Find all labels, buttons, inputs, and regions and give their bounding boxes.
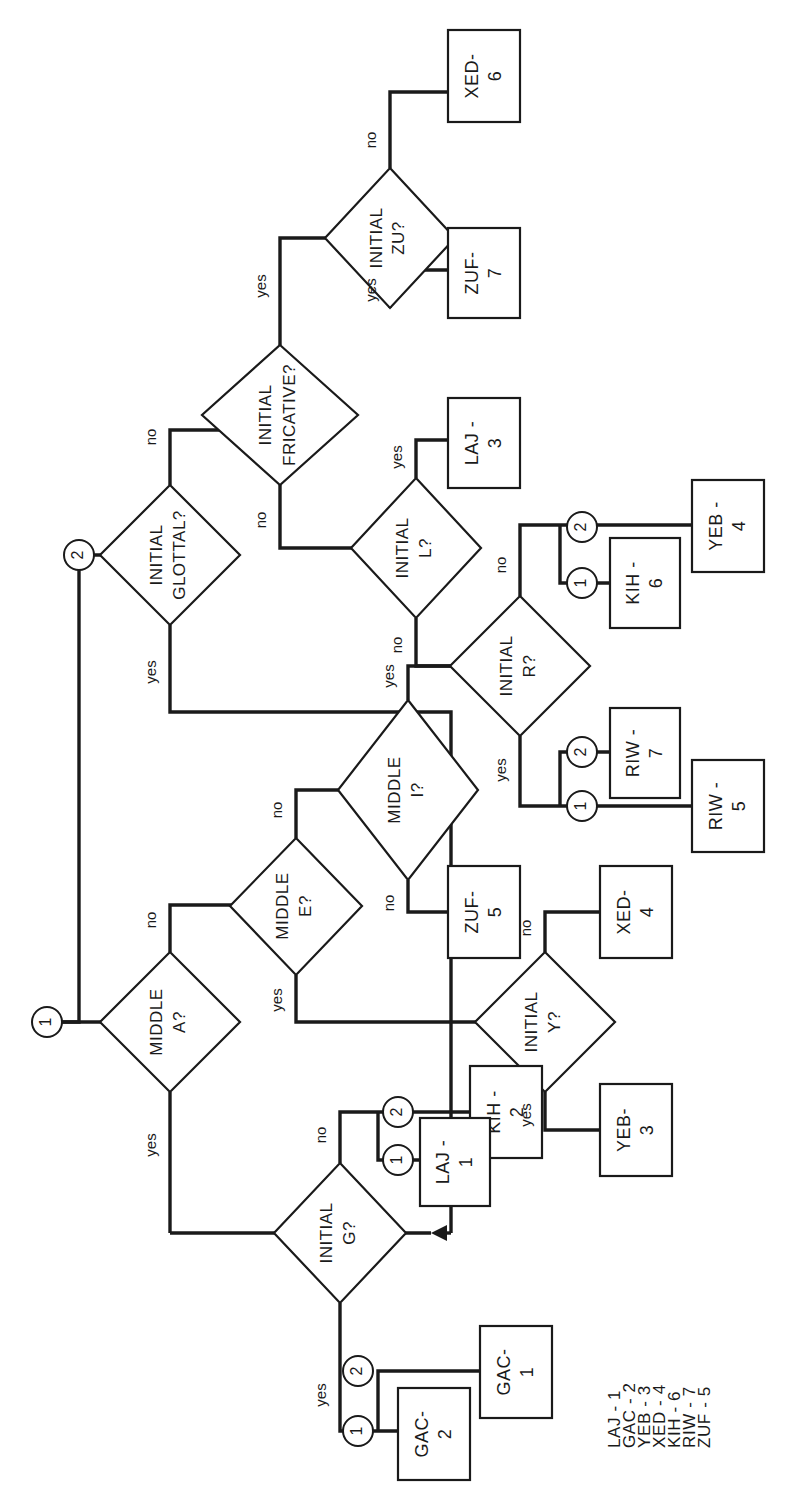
edge-entry-rail bbox=[47, 555, 79, 1022]
terminal-riw7-line2: 7 bbox=[646, 748, 666, 759]
node-initial-l-line1: INITIAL bbox=[393, 517, 412, 578]
branch-g-yes-1-label: 1 bbox=[348, 1426, 365, 1435]
edge-label-g-no: no bbox=[312, 1127, 329, 1144]
terminal-yeb4-line2: 4 bbox=[729, 521, 749, 532]
branch-r-no-2-label: 2 bbox=[572, 522, 589, 531]
branch-g-no-2-label: 2 bbox=[388, 1107, 405, 1116]
node-middle-e[interactable]: MIDDLE E? bbox=[230, 838, 362, 975]
node-initial-fricative-line2: FRICATIVE? bbox=[280, 364, 299, 466]
edge-label-y-yes: yes bbox=[517, 1103, 534, 1126]
legend-item-6: ZUF - 5 bbox=[695, 1386, 714, 1448]
edge-initial-zu-no bbox=[390, 92, 448, 168]
connector-entry-2[interactable]: 2 bbox=[64, 540, 94, 570]
terminal-laj1-line1: LAJ - bbox=[433, 1140, 453, 1185]
terminal-gac1-line1: GAC- bbox=[494, 1349, 514, 1396]
node-initial-g-line1: INITIAL bbox=[317, 1202, 336, 1263]
branch-g-no-2: 2 bbox=[383, 1097, 413, 1127]
connector-entry-1[interactable]: 1 bbox=[32, 1007, 62, 1037]
branch-r-no-1-label: 1 bbox=[572, 578, 589, 587]
node-initial-zu-line2: ZU? bbox=[389, 221, 408, 255]
edge-label-y-no: no bbox=[517, 920, 534, 937]
edge-label-g-yes: yes bbox=[312, 1383, 329, 1406]
edge-initial-y-no bbox=[545, 912, 600, 952]
flowchart-canvas: INITIAL ZU? INITIAL FRICATIVE? INITIAL G… bbox=[0, 0, 800, 1489]
node-middle-a-line2: A? bbox=[170, 1011, 189, 1033]
terminal-yeb3[interactable]: YEB- 3 bbox=[600, 1084, 672, 1176]
branch-g-yes-2-label: 2 bbox=[348, 1366, 365, 1375]
terminal-laj3-line1: LAJ - bbox=[462, 421, 482, 466]
edge-label-fricative-no: no bbox=[252, 512, 269, 529]
node-middle-i-line2: I? bbox=[408, 782, 427, 797]
terminal-xed6[interactable]: XED- 6 bbox=[448, 30, 520, 122]
edge-label-zu-no: no bbox=[362, 132, 379, 149]
terminal-xed6-line2: 6 bbox=[485, 71, 505, 82]
terminal-gac2-line1: GAC- bbox=[412, 1411, 432, 1458]
branch-g-yes-1: 1 bbox=[343, 1416, 373, 1446]
edge-label-l-no: no bbox=[388, 637, 405, 654]
node-initial-glottal-line2: GLOTTAL? bbox=[170, 510, 189, 600]
terminal-riw7-line1: RIW - bbox=[623, 729, 643, 777]
node-initial-r-line1: INITIAL bbox=[497, 635, 516, 696]
terminal-riw5-line2: 5 bbox=[729, 801, 749, 812]
node-initial-l[interactable]: INITIAL L? bbox=[351, 478, 481, 618]
branch-r-yes-1: 1 bbox=[567, 791, 597, 821]
node-middle-e-line2: E? bbox=[296, 895, 315, 917]
terminal-yeb4-line1: YEB - bbox=[706, 501, 726, 551]
terminal-riw5[interactable]: RIW - 5 bbox=[692, 760, 764, 852]
node-initial-g[interactable]: INITIAL G? bbox=[274, 1163, 406, 1303]
edge-label-glottal-no: no bbox=[142, 429, 159, 446]
node-initial-y-line1: INITIAL bbox=[522, 991, 541, 1052]
terminal-zuf5-line2: 5 bbox=[485, 907, 505, 918]
terminal-gac1[interactable]: GAC- 1 bbox=[480, 1326, 552, 1418]
branch-g-yes-2: 2 bbox=[343, 1356, 373, 1386]
node-middle-a-line1: MIDDLE bbox=[147, 988, 166, 1055]
terminal-gac1-line2: 1 bbox=[517, 1367, 537, 1378]
connector-entry-1-label: 1 bbox=[37, 1017, 54, 1026]
connector-entry-2-label: 2 bbox=[69, 550, 86, 559]
node-initial-glottal[interactable]: INITIAL GLOTTAL? bbox=[100, 485, 240, 625]
terminal-laj1[interactable]: LAJ - 1 bbox=[420, 1118, 490, 1206]
edge-label-r-yes: yes bbox=[492, 758, 509, 781]
node-initial-zu-line1: INITIAL bbox=[367, 207, 386, 268]
terminal-riw7[interactable]: RIW - 7 bbox=[610, 708, 680, 798]
terminal-zuf5-line1: ZUF- bbox=[462, 891, 482, 934]
node-middle-a[interactable]: MIDDLE A? bbox=[100, 952, 240, 1092]
node-initial-r-line2: R? bbox=[520, 655, 539, 678]
edge-label-middle-i-no: no bbox=[380, 895, 397, 912]
terminal-xed4[interactable]: XED- 4 bbox=[600, 866, 672, 958]
branch-r-yes-2: 2 bbox=[567, 737, 597, 767]
node-initial-r[interactable]: INITIAL R? bbox=[450, 596, 590, 736]
edge-label-zu-yes: yes bbox=[362, 278, 379, 301]
legend: LAJ - 1 GAC - 2 YEB - 3 XED - 4 KIH - 6 … bbox=[605, 1382, 714, 1448]
terminal-laj3[interactable]: LAJ - 3 bbox=[448, 398, 520, 488]
edge-label-middle-a-no: no bbox=[142, 912, 159, 929]
edge-label-glottal-yes: yes bbox=[142, 660, 159, 683]
node-initial-l-line2: L? bbox=[416, 538, 435, 558]
edge-label-middle-e-no: no bbox=[268, 802, 285, 819]
node-initial-y-line2: Y? bbox=[545, 1011, 564, 1033]
branch-g-no-1-label: 1 bbox=[388, 1155, 405, 1164]
terminal-xed4-line2: 4 bbox=[637, 907, 657, 918]
edge-label-r-no: no bbox=[492, 557, 509, 574]
arrowhead-initial-g bbox=[431, 1225, 447, 1241]
node-initial-fricative[interactable]: INITIAL FRICATIVE? bbox=[202, 345, 358, 485]
flowchart-svg: INITIAL ZU? INITIAL FRICATIVE? INITIAL G… bbox=[0, 0, 800, 1489]
edge-label-middle-i-yes: yes bbox=[380, 664, 397, 687]
terminal-zuf5[interactable]: ZUF- 5 bbox=[448, 866, 520, 958]
terminal-yeb3-line2: 3 bbox=[637, 1125, 657, 1136]
branch-r-no-1: 1 bbox=[567, 568, 597, 598]
terminal-xed6-line1: XED- bbox=[462, 53, 482, 98]
node-initial-zu[interactable]: INITIAL ZU? bbox=[325, 168, 455, 308]
terminal-zuf7[interactable]: ZUF- 7 bbox=[448, 228, 520, 318]
branch-r-yes-1-label: 1 bbox=[572, 801, 589, 810]
terminal-riw5-line1: RIW - bbox=[706, 782, 726, 830]
terminal-gac2-line2: 2 bbox=[435, 1429, 455, 1440]
terminal-kih6[interactable]: KIH - 6 bbox=[610, 538, 680, 628]
terminal-yeb4[interactable]: YEB - 4 bbox=[692, 480, 764, 572]
terminal-zuf7-line2: 7 bbox=[485, 268, 505, 279]
branch-g-no-1: 1 bbox=[383, 1145, 413, 1175]
terminal-gac2[interactable]: GAC- 2 bbox=[398, 1388, 470, 1480]
branch-r-yes-2-label: 2 bbox=[572, 747, 589, 756]
node-middle-i[interactable]: MIDDLE I? bbox=[338, 700, 478, 880]
node-initial-g-line2: G? bbox=[340, 1221, 359, 1245]
